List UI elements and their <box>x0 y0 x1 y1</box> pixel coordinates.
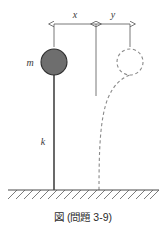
mechanics-diagram: x y m k <box>0 0 167 232</box>
mass-circle <box>41 49 67 75</box>
figure-container: x y m k <box>0 0 167 232</box>
ghost-mass-circle <box>117 49 143 75</box>
dimension-label-y: y <box>110 9 116 20</box>
dimension-label-x: x <box>72 9 78 20</box>
mass-label: m <box>26 57 33 68</box>
spring-label: k <box>41 136 46 147</box>
figure-caption: 図 (問題 3-9) <box>54 211 112 223</box>
displaced-trajectory-path <box>99 75 130 190</box>
ground-hatching <box>8 190 159 199</box>
